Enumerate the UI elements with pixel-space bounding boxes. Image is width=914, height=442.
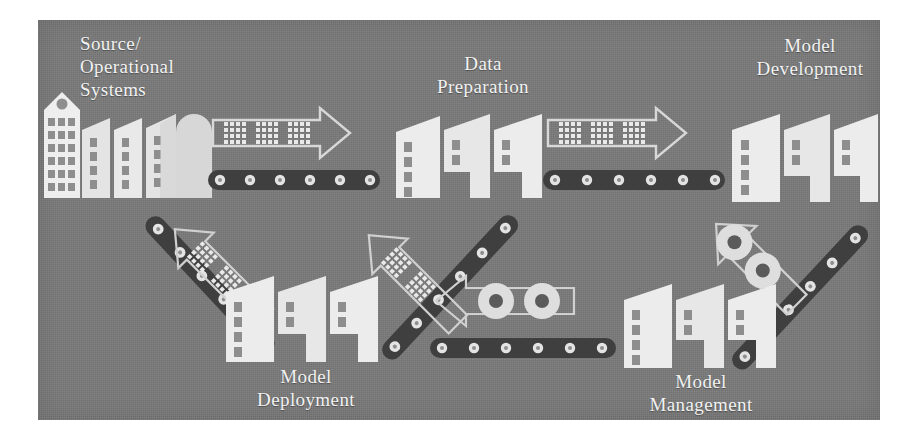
data-grid-icon [256,122,278,144]
stage-label-model-deployment: Model Deployment [257,365,355,411]
data-grid-icon [224,122,246,144]
office-buildings-icon [44,92,212,198]
factory-buildings-icon-model-deployment [226,276,378,362]
stage-label-model-management: Model Management [649,370,752,416]
conveyor-belt-icon [430,338,616,358]
data-grid-icon [623,122,645,144]
gear-icon [478,283,514,319]
diagram-panel: Source/ Operational Systems Data Prepara… [38,20,880,420]
data-grid-icon [288,122,310,144]
conveyor-belt-icon [208,170,380,190]
conveyor-belt-icon [543,170,725,190]
stage-label-data-preparation: Data Preparation [437,52,529,98]
figure-canvas: Source/ Operational Systems Data Prepara… [0,0,914,442]
connector-data-preparation-to-development [543,108,725,190]
connector-source-to-data-preparation [208,108,380,190]
stage-label-model-development: Model Development [757,34,864,80]
factory-buildings-icon-data-preparation [396,114,542,198]
data-grid-icon [559,122,581,144]
gear-icon [524,283,560,319]
factory-buildings-icon-model-development [732,114,878,202]
data-grid-icon [381,247,412,278]
stage-label-source-operational-systems: Source/ Operational Systems [80,32,174,101]
data-grid-icon [591,122,613,144]
